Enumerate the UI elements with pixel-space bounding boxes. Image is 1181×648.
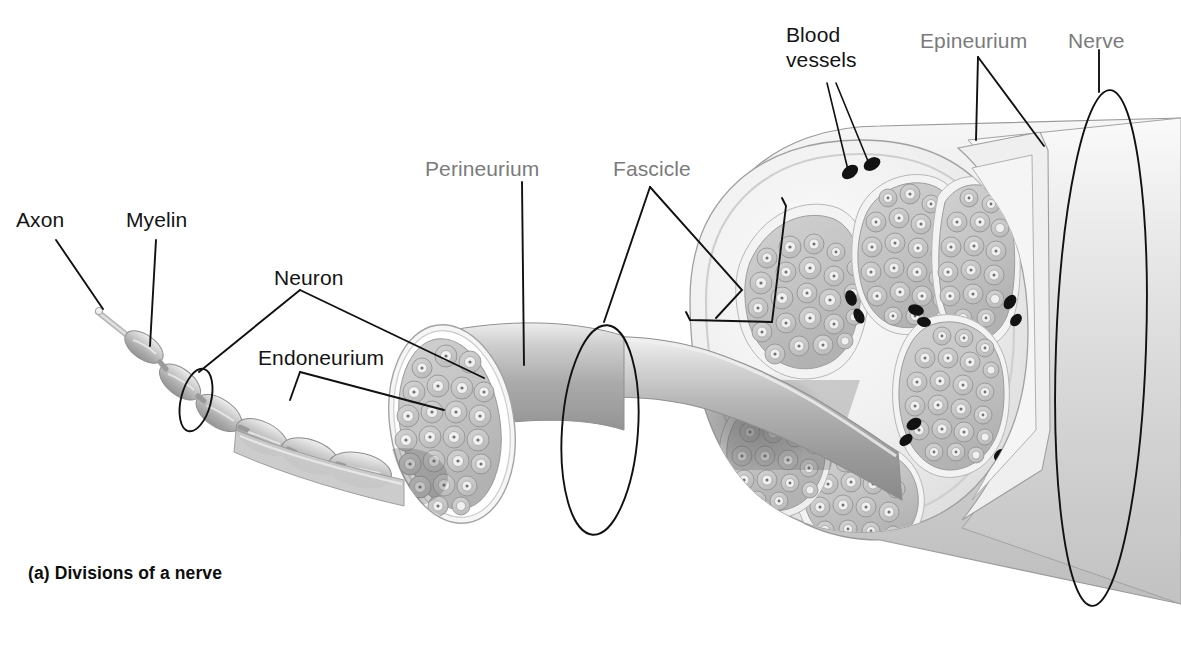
label-fascicle: Fascicle xyxy=(613,156,691,181)
myelinated-axon xyxy=(95,307,404,506)
fascicle xyxy=(893,315,1010,478)
leader-axon xyxy=(56,240,103,309)
label-blood-vessels-line1: Blood xyxy=(786,22,840,47)
figure-caption: (a) Divisions of a nerve xyxy=(28,563,222,584)
label-perineurium: Perineurium xyxy=(425,156,539,181)
nerve-illustration xyxy=(0,0,1181,648)
nerve-anatomy-figure: Axon Myelin Neuron Endoneurium Perineuri… xyxy=(0,0,1181,648)
label-myelin: Myelin xyxy=(126,207,187,232)
leader-endoneurium xyxy=(290,372,300,400)
label-neuron: Neuron xyxy=(274,265,343,290)
label-endoneurium: Endoneurium xyxy=(258,345,384,370)
label-blood-vessels-line2: vessels xyxy=(786,47,857,72)
leader-fascicle-left xyxy=(604,187,650,322)
label-nerve: Nerve xyxy=(1068,28,1125,53)
label-epineurium: Epineurium xyxy=(920,28,1027,53)
label-axon: Axon xyxy=(16,207,64,232)
leader-myelin xyxy=(150,240,156,346)
